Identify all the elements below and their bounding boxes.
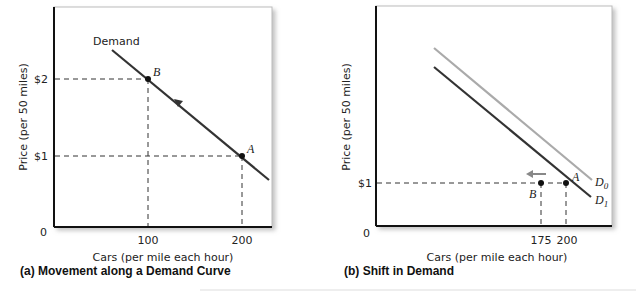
x-tick-100: 100: [138, 234, 159, 247]
point-b: [145, 76, 151, 82]
caption-a: (a) Movement along a Demand Curve: [20, 264, 231, 278]
point-a-label: A: [246, 142, 255, 156]
point-a: [239, 153, 245, 159]
point-a-label: A: [571, 170, 580, 184]
x-tick-200: 200: [557, 234, 578, 247]
y-axis-label-a: Price (per 50 miles): [17, 63, 30, 171]
demand-label: Demand: [93, 35, 140, 48]
y-tick-0: 0: [363, 227, 370, 240]
figure: Demand B A $2 $1 0 100 200 Cars (per mil…: [0, 0, 636, 291]
point-b: [538, 180, 544, 186]
x-tick-200: 200: [232, 234, 253, 247]
x-axis-label-a: Cars (per mile each hour): [93, 251, 234, 264]
panel-b: A B D0 D1 $1 0 175 200 Cars (per mile ea…: [340, 6, 612, 278]
plot-frame-a: [54, 7, 272, 227]
point-a: [563, 180, 569, 186]
x-tick-175: 175: [531, 234, 552, 247]
y-tick-1: $1: [358, 177, 372, 190]
y-axis-label-b: Price (per 50 miles): [340, 63, 353, 171]
y-tick-1: $1: [34, 150, 48, 163]
point-b-label: B: [153, 65, 161, 79]
y-tick-0: 0: [40, 226, 47, 239]
caption-b: (b) Shift in Demand: [344, 264, 454, 278]
y-tick-2: $2: [34, 73, 48, 86]
panel-a: Demand B A $2 $1 0 100 200 Cars (per mil…: [17, 7, 272, 278]
point-b-label: B: [529, 187, 537, 201]
x-axis-label-b: Cars (per mile each hour): [427, 251, 568, 264]
